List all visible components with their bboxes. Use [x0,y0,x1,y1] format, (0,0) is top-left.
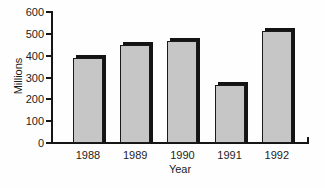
y-tick-label: 0 [12,137,44,149]
bar [167,41,197,143]
x-axis-title: Year [150,163,210,175]
x-axis-end-tick [307,137,309,144]
y-tick-mark [46,120,51,122]
y-tick-mark [46,55,51,57]
y-axis-line [51,11,53,144]
y-tick-mark [46,142,51,144]
x-tick-label: 1988 [66,149,110,161]
x-tick-label: 1989 [113,149,157,161]
bar [73,58,103,143]
x-tick-label: 1990 [160,149,204,161]
x-tick-label: 1991 [208,149,252,161]
bar [262,31,292,143]
bar-chart-figure: 0100200300400500600 19881989199019911992… [0,0,325,188]
y-axis-title: Millions [12,46,24,106]
x-tick-label: 1992 [255,149,299,161]
y-tick-label: 100 [12,115,44,127]
y-tick-label: 600 [12,6,44,18]
y-tick-label: 500 [12,28,44,40]
y-tick-mark [46,77,51,79]
y-tick-mark [46,33,51,35]
bar [120,45,150,143]
y-tick-mark [46,98,51,100]
y-tick-mark [46,11,51,13]
bar [215,85,245,143]
